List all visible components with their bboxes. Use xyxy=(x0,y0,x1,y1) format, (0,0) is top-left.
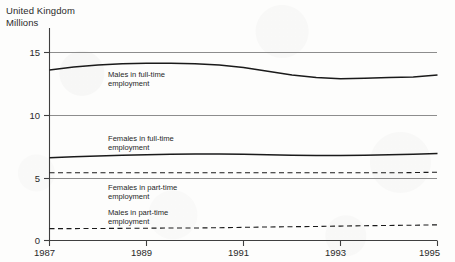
series-label-males-full-time-line1: Males in full-time xyxy=(108,70,165,79)
series-label-males-part-time-line1: Males in part-time xyxy=(108,208,168,217)
employment-line-chart: United Kingdom Millions xyxy=(0,0,455,262)
x-tick-marks xyxy=(50,241,438,247)
series-label-females-part-time-line2: employment xyxy=(108,192,177,201)
series-label-females-part-time: Females in part-time employment xyxy=(108,183,177,202)
plot-area xyxy=(0,0,455,262)
series-line-females-in-full-time-employment xyxy=(50,153,438,157)
series-label-females-full-time-line1: Females in full-time xyxy=(108,134,174,143)
x-tick-label-1991: 1991 xyxy=(228,247,249,258)
series-label-females-full-time: Females in full-time employment xyxy=(108,134,174,153)
y-tick-label-0: 0 xyxy=(22,235,40,246)
x-tick-label-1995: 1995 xyxy=(419,247,440,258)
y-tick-label-5: 5 xyxy=(22,173,40,184)
y-tick-label-15: 15 xyxy=(22,47,40,58)
x-tick-label-1987: 1987 xyxy=(34,247,55,258)
x-tick-label-1993: 1993 xyxy=(325,247,346,258)
series-label-males-full-time-line2: employment xyxy=(108,79,165,88)
series-label-females-part-time-line1: Females in part-time xyxy=(108,183,177,192)
y-tick-label-10: 10 xyxy=(22,110,40,121)
series-label-males-part-time-line2: employment xyxy=(108,217,168,226)
x-tick-label-1989: 1989 xyxy=(131,247,152,258)
series-line-females-in-part-time-employment xyxy=(50,172,438,173)
series-label-males-full-time: Males in full-time employment xyxy=(108,70,165,89)
series-label-males-part-time: Males in part-time employment xyxy=(108,208,168,227)
y-tick-marks xyxy=(44,53,49,241)
series-label-females-full-time-line2: employment xyxy=(108,143,174,152)
